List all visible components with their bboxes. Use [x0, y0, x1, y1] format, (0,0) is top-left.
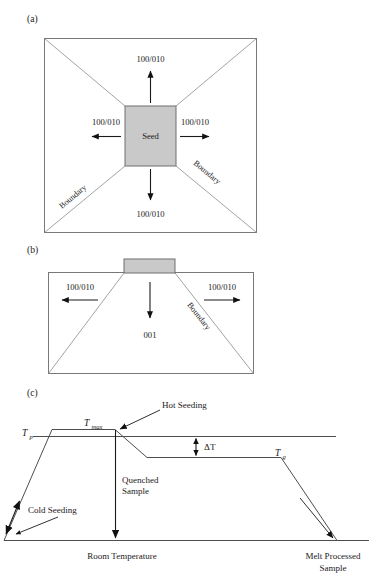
seed-label-a: Seed [142, 131, 159, 141]
growth-label-down-a: 100/010 [136, 209, 164, 219]
melt-processed-label-line1: Melt Processed [305, 551, 361, 561]
growth-label-right-b: 100/010 [208, 282, 236, 292]
quenched-sample-label-line1: Quenched [122, 475, 159, 485]
panel-c: (c) T p T max T g Ho [4, 388, 369, 573]
tg-subscript: g [283, 453, 287, 460]
delta-t-label: ΔT [204, 442, 216, 452]
panel-b-tag: (b) [27, 245, 38, 256]
cold-seeding-label: Cold Seeding [28, 505, 77, 515]
panel-a-tag: (a) [27, 14, 38, 25]
hot-seeding-label: Hot Seeding [162, 400, 207, 410]
growth-label-left-a: 100/010 [92, 117, 120, 127]
tp-subscript: p [29, 433, 34, 440]
tp-base: T [22, 428, 28, 438]
growth-label-up-a: 100/010 [136, 54, 164, 64]
tmax-base: T [84, 418, 90, 428]
growth-label-left-b: 100/010 [66, 282, 94, 292]
tmax-subscript: max [92, 423, 103, 430]
panel-a-diagonal-bl [45, 166, 126, 233]
melt-processed-label-line2: Sample [320, 563, 347, 573]
growth-label-right-a: 100/010 [181, 117, 209, 127]
tg-symbol: T g [275, 448, 287, 460]
quenched-sample-label-line2: Sample [122, 486, 149, 496]
hot-seeding-arrow [120, 410, 160, 429]
panel-c-tag: (c) [27, 388, 38, 399]
cold-seeding-leader [16, 517, 58, 534]
panel-a-diagonal-tr [176, 39, 257, 107]
seed-block-b [124, 259, 175, 273]
panel-a-diagonal-tl [45, 39, 126, 107]
figure-canvas: (a) Seed 100/010 100/010 100/010 100/010 [0, 0, 373, 583]
growth-label-down-b: 001 [144, 330, 157, 340]
melt-processed-arrow [300, 498, 333, 538]
tmax-symbol: T max [84, 418, 103, 430]
boundary-label-left-a: Boundary [58, 182, 89, 210]
thermal-profile-curve [4, 430, 337, 541]
panel-a: (a) Seed 100/010 100/010 100/010 100/010 [27, 14, 257, 233]
tg-base: T [275, 448, 281, 458]
tp-symbol: T p [22, 428, 34, 440]
room-temperature-label: Room Temperature [87, 551, 156, 561]
figure-root: (a) Seed 100/010 100/010 100/010 100/010 [0, 0, 373, 583]
panel-b: (b) 100/010 100/010 001 Boundary [27, 245, 254, 374]
cold-seeding-arrow [6, 501, 20, 534]
